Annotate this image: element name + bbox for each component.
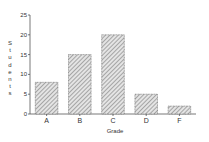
x-tick-label: D	[144, 117, 149, 124]
y-tick-label: 25	[20, 12, 27, 18]
y-tick-label: 20	[20, 32, 27, 38]
y-axis-label-letter: n	[6, 76, 14, 83]
y-axis-label-letter: u	[6, 54, 14, 61]
bars	[35, 35, 190, 114]
chart-canvas: 0510152025ABCDF	[0, 0, 209, 142]
bar-a	[35, 82, 58, 114]
x-tick-label: A	[44, 117, 49, 124]
x-axis-label: Grade	[90, 128, 140, 134]
y-axis-label-letter: s	[6, 90, 14, 97]
y-axis-label-letter: t	[6, 47, 14, 54]
bar-b	[69, 55, 92, 114]
bar-d	[135, 94, 158, 114]
y-tick-label: 5	[24, 91, 28, 97]
y-axis-label-letter: e	[6, 69, 14, 76]
y-tick-label: 15	[20, 52, 27, 58]
y-tick-label: 10	[20, 71, 27, 77]
x-tick-label: B	[77, 117, 82, 124]
bar-chart: 0510152025ABCDF Students Grade	[0, 0, 209, 142]
y-axis-label-letter: t	[6, 83, 14, 90]
x-tick-label: C	[110, 117, 115, 124]
y-axis-label: Students	[6, 40, 14, 98]
x-tick-label: F	[177, 117, 181, 124]
bar-f	[168, 106, 191, 114]
y-axis-label-letter: d	[6, 62, 14, 69]
y-tick-label: 0	[24, 111, 28, 117]
y-axis-label-letter: S	[6, 40, 14, 47]
bar-c	[102, 35, 125, 114]
